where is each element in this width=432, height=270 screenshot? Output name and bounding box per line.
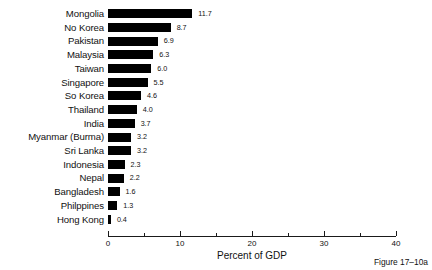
x-axis-tick-major <box>396 231 397 236</box>
bar-row: So Korea4.6 <box>0 89 432 103</box>
bar-value-label: 8.7 <box>177 21 187 35</box>
bar <box>108 187 120 196</box>
bar-value-label: 4.0 <box>143 103 153 117</box>
x-axis-tick-major <box>324 231 325 236</box>
bar <box>108 91 141 100</box>
x-axis-tick-label: 10 <box>176 239 185 249</box>
bar <box>108 105 137 114</box>
bar-row: Taiwan6.0 <box>0 62 432 76</box>
x-axis-tick-major <box>108 231 109 236</box>
bar-category-label: Malaysia <box>0 48 104 62</box>
bar-value-label: 4.6 <box>147 89 157 103</box>
x-axis-tick-minor <box>360 233 361 237</box>
bar <box>108 50 153 59</box>
bar <box>108 78 148 87</box>
bar-row: Philppines1.3 <box>0 199 432 213</box>
bar-row: Singapore5.5 <box>0 76 432 90</box>
bar-row: Sri Lanka3.2 <box>0 144 432 158</box>
x-axis-title: Percent of GDP <box>108 250 396 261</box>
bar-category-label: Singapore <box>0 76 104 90</box>
bar-row: India3.7 <box>0 117 432 131</box>
bar-row: Malaysia6.3 <box>0 48 432 62</box>
bar-value-label: 1.6 <box>126 185 136 199</box>
bar <box>108 201 117 210</box>
bar-value-label: 5.5 <box>154 76 164 90</box>
x-axis-tick-label: 40 <box>392 239 401 249</box>
bar-category-label: Philppines <box>0 199 104 213</box>
bar-row: Myanmar (Burma)3.2 <box>0 130 432 144</box>
bar-value-label: 6.9 <box>164 34 174 48</box>
bar-row: Indonesia2.3 <box>0 158 432 172</box>
bar-value-label: 6.0 <box>157 62 167 76</box>
bar-value-label: 1.3 <box>123 199 133 213</box>
x-axis-tick-label: 30 <box>320 239 329 249</box>
bar-chart-plot: Mongolia11.7No Korea8.7Pakistan6.9Malays… <box>0 0 432 270</box>
x-axis-tick-major <box>252 231 253 236</box>
x-axis-tick-label: 20 <box>248 239 257 249</box>
bar-category-label: Mongolia <box>0 7 104 21</box>
figure-caption: Figure 17–10a <box>374 257 428 267</box>
bar <box>108 37 158 46</box>
bar-row: Thailand4.0 <box>0 103 432 117</box>
x-axis-line <box>108 236 396 237</box>
bar-row: Nepal2.2 <box>0 171 432 185</box>
figure-container: Mongolia11.7No Korea8.7Pakistan6.9Malays… <box>0 0 432 270</box>
bar-row: No Korea8.7 <box>0 21 432 35</box>
bar-category-label: Nepal <box>0 171 104 185</box>
x-axis-tick-minor <box>216 233 217 237</box>
bar-value-label: 3.2 <box>137 130 147 144</box>
bar-row: Bangladesh1.6 <box>0 185 432 199</box>
bar-value-label: 2.3 <box>131 158 141 172</box>
bar-value-label: 3.2 <box>137 144 147 158</box>
bar-category-label: So Korea <box>0 89 104 103</box>
bar-row: Mongolia11.7 <box>0 7 432 21</box>
bar-row: Hong Kong0.4 <box>0 213 432 227</box>
bar <box>108 215 111 224</box>
bar <box>108 146 131 155</box>
bar <box>108 9 192 18</box>
bar <box>108 174 124 183</box>
bar-category-label: Myanmar (Burma) <box>0 130 104 144</box>
bar-category-label: Pakistan <box>0 34 104 48</box>
bar-row: Pakistan6.9 <box>0 34 432 48</box>
bar-category-label: Indonesia <box>0 158 104 172</box>
bar <box>108 23 171 32</box>
bar-value-label: 11.7 <box>198 7 211 21</box>
bar <box>108 119 135 128</box>
bar-value-label: 6.3 <box>159 48 169 62</box>
x-axis-tick-minor <box>144 233 145 237</box>
bar-category-label: Sri Lanka <box>0 144 104 158</box>
bar <box>108 64 151 73</box>
x-axis-tick-major <box>180 231 181 236</box>
bar-category-label: Bangladesh <box>0 185 104 199</box>
bar-value-label: 2.2 <box>130 171 140 185</box>
bar-category-label: No Korea <box>0 21 104 35</box>
bar-value-label: 3.7 <box>141 117 151 131</box>
x-axis-tick-label: 0 <box>106 239 110 249</box>
bar-category-label: Taiwan <box>0 62 104 76</box>
x-axis-tick-minor <box>288 233 289 237</box>
bar-category-label: Thailand <box>0 103 104 117</box>
bar <box>108 133 131 142</box>
bar-value-label: 0.4 <box>117 213 127 227</box>
bar-category-label: Hong Kong <box>0 213 104 227</box>
bar-category-label: India <box>0 117 104 131</box>
bar <box>108 160 125 169</box>
